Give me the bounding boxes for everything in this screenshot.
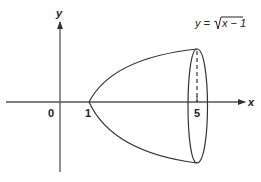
cross-section-ellipse-front: [197, 49, 208, 163]
upper-curve: [89, 49, 197, 102]
revolution-diagram: y x 0 1 5 y = x − 1: [0, 0, 261, 182]
cross-section-ellipse-back: [188, 49, 197, 163]
equation-lhs: y =: [194, 17, 211, 29]
tick-label-5: 5: [194, 107, 200, 119]
x-axis-label: x: [247, 96, 255, 108]
equation-label: y = x − 1: [194, 17, 246, 29]
y-axis-label: y: [55, 7, 63, 19]
lower-curve: [89, 102, 197, 163]
equation-radicand: x − 1: [221, 17, 246, 29]
tick-label-1: 1: [85, 107, 91, 119]
origin-label: 0: [48, 107, 54, 119]
